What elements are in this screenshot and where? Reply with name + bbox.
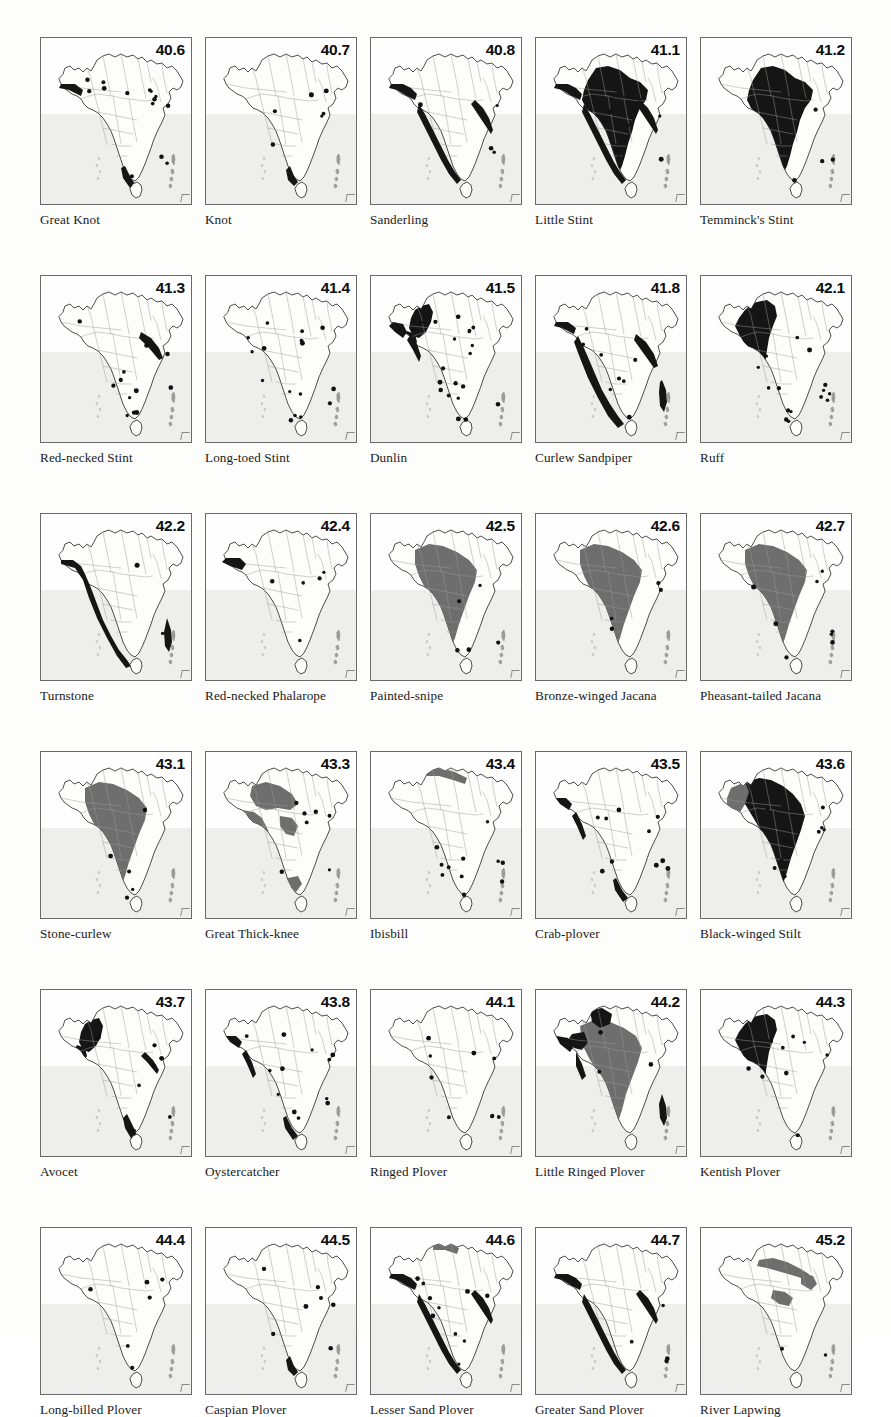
map-panel[interactable]: 44.4 [40, 1227, 192, 1395]
map-panel[interactable]: 40.6 [40, 37, 192, 205]
species-name-label: Crab-plover [535, 926, 687, 941]
figure-number: 43.3 [321, 755, 350, 773]
distribution-map-graphic [41, 990, 191, 1156]
species-name-label: Stone-curlew [40, 926, 192, 941]
figure-number: 40.8 [486, 41, 515, 59]
distribution-map-graphic [536, 990, 686, 1156]
distribution-map-graphic [701, 1228, 851, 1394]
scale-corner-icon [180, 908, 190, 916]
figure-number: 42.4 [321, 517, 350, 535]
map-panel[interactable]: 41.8 [535, 275, 687, 443]
map-cell: 43.4Ibisbill [370, 751, 522, 941]
distribution-map-graphic [206, 276, 356, 442]
map-panel[interactable]: 43.8 [205, 989, 357, 1157]
map-cell: 42.1Ruff [700, 275, 852, 465]
species-name-label: Turnstone [40, 688, 192, 703]
figure-number: 44.2 [651, 993, 680, 1011]
species-name-label: Ruff [700, 450, 852, 465]
map-panel[interactable]: 43.3 [205, 751, 357, 919]
map-panel[interactable]: 41.2 [700, 37, 852, 205]
species-name-label: Avocet [40, 1164, 192, 1179]
distribution-map-graphic [536, 1228, 686, 1394]
species-name-label: Temminck's Stint [700, 212, 852, 227]
species-name-label: Lesser Sand Plover [370, 1402, 522, 1417]
figure-number: 43.7 [156, 993, 185, 1011]
figure-number: 45.2 [816, 1231, 845, 1249]
scale-corner-icon [510, 908, 520, 916]
map-panel[interactable]: 44.1 [370, 989, 522, 1157]
map-panel[interactable]: 44.2 [535, 989, 687, 1157]
map-cell: 42.4Red-necked Phalarope [205, 513, 357, 703]
map-panel[interactable]: 44.5 [205, 1227, 357, 1395]
map-panel[interactable]: 45.2 [700, 1227, 852, 1395]
figure-number: 42.5 [486, 517, 515, 535]
map-panel[interactable]: 44.3 [700, 989, 852, 1157]
species-name-label: Ibisbill [370, 926, 522, 941]
figure-number: 40.7 [321, 41, 350, 59]
distribution-map-graphic [206, 990, 356, 1156]
scale-corner-icon [510, 1146, 520, 1154]
map-cell: 41.2Temminck's Stint [700, 37, 852, 227]
scale-corner-icon [180, 1146, 190, 1154]
species-name-label: Sanderling [370, 212, 522, 227]
species-name-label: Red-necked Stint [40, 450, 192, 465]
figure-number: 41.1 [651, 41, 680, 59]
map-panel[interactable]: 40.7 [205, 37, 357, 205]
map-cell: 43.1Stone-curlew [40, 751, 192, 941]
distribution-map-graphic [206, 38, 356, 204]
scale-corner-icon [840, 194, 850, 202]
distribution-map-graphic [701, 38, 851, 204]
map-panel[interactable]: 43.1 [40, 751, 192, 919]
map-cell: 43.6Black-winged Stilt [700, 751, 852, 941]
scale-corner-icon [840, 670, 850, 678]
map-cell: 42.7Pheasant-tailed Jacana [700, 513, 852, 703]
map-panel[interactable]: 41.5 [370, 275, 522, 443]
map-cell: 43.8Oystercatcher [205, 989, 357, 1179]
species-name-label: Curlew Sandpiper [535, 450, 687, 465]
map-panel[interactable]: 42.6 [535, 513, 687, 681]
map-panel[interactable]: 42.2 [40, 513, 192, 681]
figure-number: 43.4 [486, 755, 515, 773]
species-name-label: Great Knot [40, 212, 192, 227]
distribution-map-graphic [371, 38, 521, 204]
figure-number: 44.6 [486, 1231, 515, 1249]
map-cell: 42.5Painted-snipe [370, 513, 522, 703]
scale-corner-icon [510, 432, 520, 440]
map-cell: 45.2River Lapwing [700, 1227, 852, 1417]
scale-corner-icon [180, 194, 190, 202]
map-panel[interactable]: 40.8 [370, 37, 522, 205]
map-panel[interactable]: 44.6 [370, 1227, 522, 1395]
map-panel[interactable]: 43.6 [700, 751, 852, 919]
map-panel[interactable]: 42.7 [700, 513, 852, 681]
figure-number: 43.5 [651, 755, 680, 773]
distribution-map-graphic [536, 514, 686, 680]
map-panel[interactable]: 41.3 [40, 275, 192, 443]
distribution-map-graphic [536, 276, 686, 442]
species-name-label: Knot [205, 212, 357, 227]
map-cell: 44.5Caspian Plover [205, 1227, 357, 1417]
map-cell: 41.5Dunlin [370, 275, 522, 465]
distribution-map-graphic [371, 276, 521, 442]
map-panel[interactable]: 42.5 [370, 513, 522, 681]
distribution-map-graphic [41, 276, 191, 442]
species-name-label: Red-necked Phalarope [205, 688, 357, 703]
scale-corner-icon [345, 908, 355, 916]
distribution-map-graphic [41, 38, 191, 204]
map-panel[interactable]: 42.4 [205, 513, 357, 681]
scale-corner-icon [840, 432, 850, 440]
figure-number: 43.8 [321, 993, 350, 1011]
scale-corner-icon [675, 908, 685, 916]
scale-corner-icon [510, 670, 520, 678]
map-panel[interactable]: 43.4 [370, 751, 522, 919]
species-name-label: River Lapwing [700, 1402, 852, 1417]
figure-number: 40.6 [156, 41, 185, 59]
map-panel[interactable]: 42.1 [700, 275, 852, 443]
map-panel[interactable]: 44.7 [535, 1227, 687, 1395]
map-panel[interactable]: 43.7 [40, 989, 192, 1157]
map-panel[interactable]: 41.1 [535, 37, 687, 205]
map-panel[interactable]: 41.4 [205, 275, 357, 443]
distribution-map-graphic [701, 752, 851, 918]
map-cell: 44.7Greater Sand Plover [535, 1227, 687, 1417]
map-panel[interactable]: 43.5 [535, 751, 687, 919]
map-cell: 41.3Red-necked Stint [40, 275, 192, 465]
